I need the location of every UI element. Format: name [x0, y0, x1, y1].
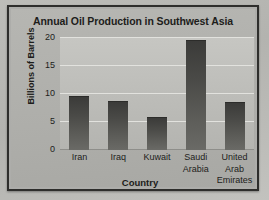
y-axis-tick-label: 20 [45, 32, 55, 42]
bar [147, 117, 167, 150]
bar [69, 96, 89, 150]
x-axis-title: Country [60, 177, 220, 188]
bar-slot [215, 38, 254, 150]
y-axis-tick-label: 0 [50, 144, 55, 154]
page-background: Annual Oil Production in Southwest Asia … [0, 0, 269, 200]
plot-area: 20151050 [60, 38, 254, 150]
bar [225, 102, 245, 150]
bar-series [60, 38, 254, 150]
bar-slot [60, 38, 99, 150]
bar [108, 101, 128, 150]
bar-slot [138, 38, 177, 150]
chart-figure-frame: Annual Oil Production in Southwest Asia … [7, 5, 259, 191]
bar-slot [99, 38, 138, 150]
y-axis-tick-label: 10 [45, 88, 55, 98]
y-axis-title: Billions of Barrels [26, 14, 36, 119]
bar [186, 40, 206, 150]
x-axis-tick-label-line: United [211, 152, 259, 164]
chart-figure-panel: Annual Oil Production in Southwest Asia … [11, 9, 255, 187]
chart-title: Annual Oil Production in Southwest Asia [11, 15, 255, 27]
bar-slot [176, 38, 215, 150]
y-axis-tick-label: 5 [50, 116, 55, 126]
x-axis-tick-label-line: Arab [211, 164, 259, 176]
y-axis-tick-label: 15 [45, 60, 55, 70]
x-axis-tick-labels: IranIraqKuwaitSaudiArabiaUnitedArabEmira… [60, 152, 254, 200]
